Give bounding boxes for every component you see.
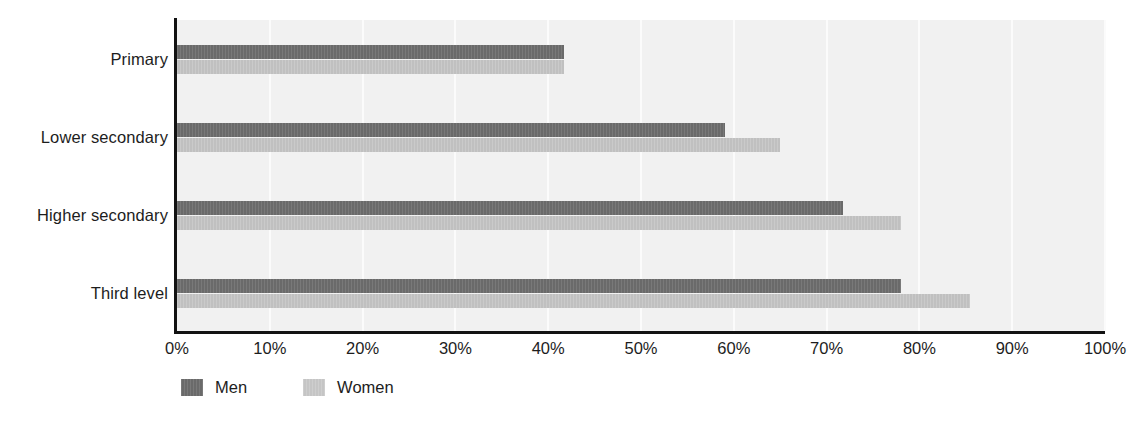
x-tick-50pct: 50%: [624, 338, 657, 358]
x-tick-40pct: 40%: [532, 338, 565, 358]
x-tick-70pct: 70%: [810, 338, 843, 358]
bar-men-lower-secondary: [177, 123, 725, 137]
chart-legend: MenWomen: [181, 378, 450, 396]
x-tick-100pct: 100%: [1084, 338, 1126, 358]
legend-item-men[interactable]: Men: [181, 378, 247, 396]
bar-men-higher-secondary: [177, 201, 843, 215]
x-tick-0pct: 0%: [165, 338, 189, 358]
plot-area: [177, 20, 1105, 332]
category-label-primary: Primary: [0, 50, 168, 68]
category-axis: PrimaryLower secondaryHigher secondaryTh…: [0, 20, 168, 332]
legend-item-women[interactable]: Women: [303, 378, 394, 396]
bar-group: [177, 123, 1105, 152]
x-tick-10pct: 10%: [253, 338, 286, 358]
category-label-third-level: Third level: [0, 284, 168, 302]
legend-label: Women: [337, 378, 394, 396]
category-label-higher-secondary: Higher secondary: [0, 206, 168, 224]
bar-women-higher-secondary: [177, 216, 901, 230]
y-axis-line: [174, 18, 177, 334]
category-label-lower-secondary: Lower secondary: [0, 128, 168, 146]
bar-women-primary: [177, 60, 564, 74]
x-axis-line: [174, 331, 1105, 334]
legend-swatch-women-icon: [303, 379, 325, 396]
x-tick-30pct: 30%: [439, 338, 472, 358]
horizontal-bar-chart: PrimaryLower secondaryHigher secondaryTh…: [0, 0, 1131, 426]
x-tick-20pct: 20%: [346, 338, 379, 358]
bar-women-third-level: [177, 294, 970, 308]
bar-men-third-level: [177, 279, 901, 293]
x-tick-60pct: 60%: [717, 338, 750, 358]
bar-group: [177, 45, 1105, 74]
bar-women-lower-secondary: [177, 138, 780, 152]
bar-men-primary: [177, 45, 564, 59]
x-axis-tick-labels: 0%10%20%30%40%50%60%70%80%90%100%: [177, 338, 1105, 362]
legend-swatch-men-icon: [181, 379, 203, 396]
x-tick-90pct: 90%: [996, 338, 1029, 358]
x-tick-80pct: 80%: [903, 338, 936, 358]
bar-group: [177, 201, 1105, 230]
legend-label: Men: [215, 378, 247, 396]
bar-group: [177, 279, 1105, 308]
